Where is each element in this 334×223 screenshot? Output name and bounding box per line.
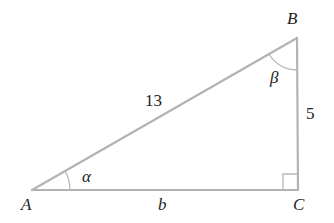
side-label-BC: 5: [306, 104, 315, 123]
side-label-hypotenuse: 13: [145, 91, 162, 110]
angle-arc-alpha: [65, 171, 70, 190]
vertex-label-A: A: [20, 195, 32, 214]
right-angle-marker: [283, 174, 298, 190]
hypotenuse-AB: [32, 38, 297, 190]
vertex-label-C: C: [293, 195, 305, 214]
right-triangle-diagram: A B C 13 5 b α β: [0, 0, 334, 223]
angle-label-alpha: α: [82, 167, 92, 186]
vertex-label-B: B: [287, 9, 298, 28]
leg-BC: [297, 38, 298, 190]
side-label-AC: b: [158, 195, 167, 214]
angle-label-beta: β: [269, 68, 279, 87]
